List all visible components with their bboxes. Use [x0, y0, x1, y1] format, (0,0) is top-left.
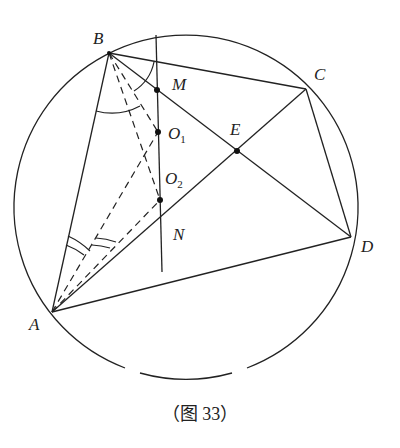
label-C: C: [314, 65, 326, 84]
figure-caption: （图 33）: [162, 404, 239, 424]
label-B: B: [93, 29, 104, 48]
point-M: [154, 87, 160, 93]
quadrilateral: [52, 35, 351, 312]
point-E: [234, 148, 240, 154]
dashed-AO2: [52, 200, 160, 312]
label-O1: O1: [168, 124, 186, 145]
label-A: A: [28, 315, 40, 334]
diagonal-AC: [52, 89, 306, 312]
dashed-AO1: [52, 132, 158, 312]
side-DA: [52, 237, 351, 312]
point-O1: [155, 129, 161, 135]
angle-mark-B-inner: [96, 106, 140, 113]
label-O2: O2: [165, 169, 183, 190]
dashed-lines: [52, 53, 160, 312]
label-N: N: [172, 225, 186, 244]
side-BC: [109, 53, 306, 89]
label-M: M: [171, 75, 187, 94]
point-O2: [157, 197, 163, 203]
geometry-figure: B C D A E M N O1 O2 （图 33）: [0, 0, 400, 448]
angle-mark-A-1a: [68, 236, 90, 251]
angle-mark-A-2b: [92, 245, 110, 248]
circumcircle-bottom-arc: [140, 373, 232, 379]
label-D: D: [360, 237, 374, 256]
angle-mark-A-1b: [66, 245, 84, 255]
side-AB: [52, 53, 109, 312]
line-MN: [156, 35, 162, 272]
angle-mark-A-2a: [96, 238, 116, 242]
point-B: [107, 51, 111, 55]
dashed-BO1: [109, 53, 158, 132]
angle-mark-B-outer: [134, 62, 154, 91]
dashed-BO2: [109, 53, 160, 200]
label-E: E: [229, 120, 241, 139]
angle-marks: [66, 62, 154, 255]
